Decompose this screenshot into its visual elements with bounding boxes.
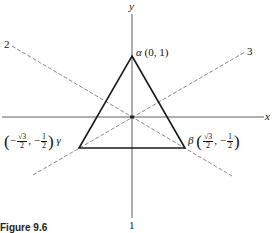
gamma-y-den: 2 [42,142,46,150]
close-paren: ) [48,132,54,151]
gamma-x-fraction: √32 [17,133,27,150]
vertex-alpha-label: α (0, 1) [136,47,168,58]
beta-symbol: β [188,134,193,146]
gamma-x-den: 2 [20,142,24,150]
beta-y-den: 2 [228,142,232,150]
gamma-x-sign: − [10,134,16,146]
beta-y-sign: − [220,134,226,146]
line-label-2: 2 [4,39,10,50]
diagram-canvas [0,0,273,233]
reflection-line-3 [33,52,245,175]
x-axis-label: x [265,111,270,122]
gamma-y-sign: − [34,134,40,146]
vertex-beta-label: β (√32, −12) [188,133,240,150]
beta-x-fraction: √32 [203,133,213,150]
gamma-symbol: γ [56,134,60,146]
beta-y-fraction: 12 [227,133,233,150]
gamma-y-fraction: 12 [41,133,47,150]
close-paren: ) [234,132,240,151]
line-label-1: 1 [129,220,135,231]
origin-point [130,116,134,119]
line-label-3: 3 [247,46,253,57]
vertex-gamma-label: (−√32, −12) γ [4,133,61,150]
alpha-coords: (0, 1) [145,46,169,58]
beta-x-den: 2 [206,142,210,150]
figure-caption: Figure 9.6 [0,222,47,233]
alpha-symbol: α [136,46,142,58]
reflection-line-2 [12,46,232,176]
y-axis-label: y [129,1,134,12]
open-paren: ( [196,132,202,151]
